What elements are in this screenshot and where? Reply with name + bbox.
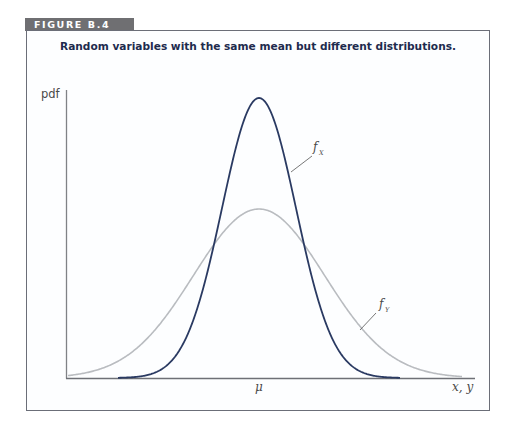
f-y-leader-line [360, 313, 376, 330]
x-tick-label-mu: μ [255, 380, 263, 394]
x-axis-label: x, y [452, 380, 473, 394]
f-y-label: f Y [378, 297, 390, 314]
chart-plot: pdf μ x, y f X f Y [0, 0, 513, 431]
f-x-leader-line [291, 156, 312, 172]
curve-f-x [118, 98, 400, 378]
f-x-label-sub: X [318, 149, 324, 157]
y-axis-label: pdf [41, 87, 61, 101]
f-x-label: f X [312, 140, 324, 157]
curve-f-y [68, 209, 462, 377]
f-y-label-sub: Y [385, 306, 390, 314]
